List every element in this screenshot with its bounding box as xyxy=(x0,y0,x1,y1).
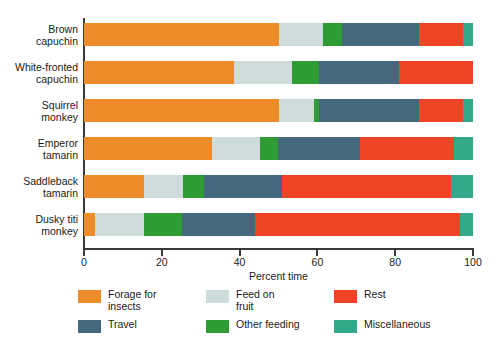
x-axis-tick-label: 0 xyxy=(81,256,87,268)
bar-segment xyxy=(278,137,360,160)
bar-segment xyxy=(84,213,95,236)
legend-item[interactable]: Miscellaneous xyxy=(334,319,474,333)
category-label: Saddlebacktamarin xyxy=(0,176,78,199)
category-label: Squirrelmonkey xyxy=(0,100,78,123)
bar-segment xyxy=(204,175,283,198)
bar-segment xyxy=(183,175,204,198)
chart-legend: Forage for insectsFeed on fruitRestTrave… xyxy=(78,289,478,349)
bar-segment xyxy=(255,213,460,236)
category-label: Browncapuchin xyxy=(0,24,78,47)
bar-segment xyxy=(319,99,420,122)
bar-segment xyxy=(84,99,279,122)
legend-item[interactable]: Travel xyxy=(78,319,206,333)
bar-segment xyxy=(292,61,319,84)
bar-segment xyxy=(419,23,463,46)
legend-item[interactable]: Other feeding xyxy=(206,319,334,333)
bar-segment xyxy=(84,23,279,46)
legend-label: Miscellaneous xyxy=(364,319,431,331)
x-axis-tick-label: 80 xyxy=(389,256,401,268)
bar-segment xyxy=(342,23,420,46)
bar-segment xyxy=(212,137,260,160)
bar-segment xyxy=(463,23,473,46)
legend-swatch-icon xyxy=(206,290,229,303)
bar-segment xyxy=(279,23,323,46)
bar-row xyxy=(84,175,473,198)
bar-segment xyxy=(279,99,314,122)
bar-segment xyxy=(399,61,473,84)
bar-segment xyxy=(84,61,234,84)
legend-swatch-icon xyxy=(78,320,101,333)
x-axis-title: Percent time xyxy=(0,270,503,282)
x-axis-tick-label: 100 xyxy=(464,256,482,268)
legend-label: Forage for insects xyxy=(108,289,156,312)
bar-segment xyxy=(144,213,182,236)
stacked-bar-chart: BrowncapuchinWhite-frontedcapuchinSquirr… xyxy=(0,0,503,359)
bar-row xyxy=(84,23,473,46)
legend-item[interactable]: Rest xyxy=(334,289,474,303)
bar-segment xyxy=(323,23,342,46)
bar-row xyxy=(84,99,473,122)
category-label: Dusky titimonkey xyxy=(0,214,78,237)
x-axis-tick-label: 40 xyxy=(234,256,246,268)
bar-segment xyxy=(319,61,399,84)
legend-swatch-icon xyxy=(334,320,357,333)
bar-segment xyxy=(419,99,463,122)
bar-segment xyxy=(95,213,144,236)
x-axis-tick-label: 20 xyxy=(156,256,168,268)
bar-segment xyxy=(454,137,473,160)
bar-segment xyxy=(260,137,279,160)
bar-segment xyxy=(463,99,473,122)
legend-item[interactable]: Forage for insects xyxy=(78,289,206,312)
legend-label: Rest xyxy=(364,289,386,301)
bar-segment xyxy=(84,137,212,160)
bar-segment xyxy=(144,175,183,198)
bar-segment xyxy=(282,175,450,198)
legend-item[interactable]: Feed on fruit xyxy=(206,289,334,312)
bar-row xyxy=(84,137,473,160)
category-label: White-frontedcapuchin xyxy=(0,62,78,85)
bar-segment xyxy=(460,213,473,236)
bar-segment xyxy=(84,175,144,198)
legend-swatch-icon xyxy=(78,290,101,303)
legend-label: Other feeding xyxy=(236,319,300,331)
bar-segment xyxy=(451,175,473,198)
legend-label: Travel xyxy=(108,319,137,331)
x-axis-tick-label: 60 xyxy=(312,256,324,268)
bar-row xyxy=(84,213,473,236)
legend-swatch-icon xyxy=(334,290,357,303)
legend-label: Feed on fruit xyxy=(236,289,275,312)
bar-segment xyxy=(182,213,256,236)
x-axis-line xyxy=(83,248,474,250)
legend-swatch-icon xyxy=(206,320,229,333)
category-label: Emperortamarin xyxy=(0,138,78,161)
bar-row xyxy=(84,61,473,84)
bar-segment xyxy=(360,137,454,160)
bar-segment xyxy=(234,61,292,84)
